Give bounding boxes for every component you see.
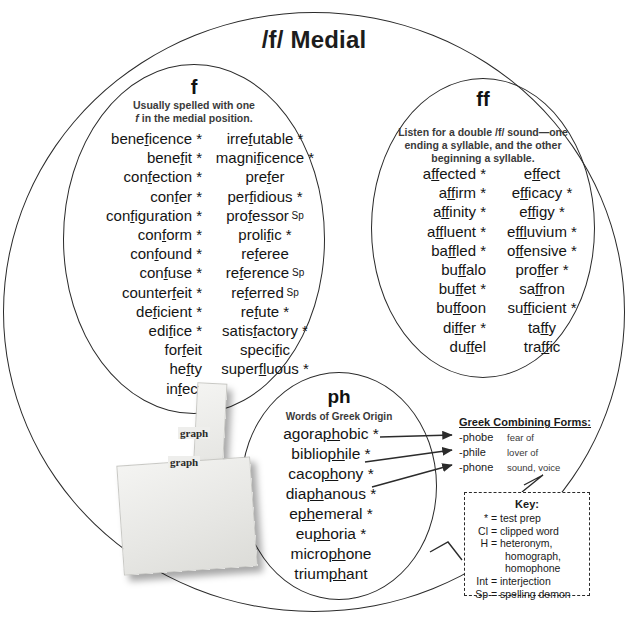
word-entry: professor Sp [200,206,330,225]
word-tag: Sp [289,210,304,221]
word-entry: affirm * [376,183,486,202]
circle-f-label: f [63,76,325,99]
word-entry: deficient * [62,302,202,321]
word-tag: * [279,303,289,320]
sticky-note-word-bottom: graph [168,456,200,468]
key-row: * = test prep [465,512,589,525]
word-entry: proffer * [488,260,596,279]
key-legend: Key: * = test prepCl = clipped wordH = h… [464,492,590,596]
sticky-note-card [116,456,257,575]
key-row: Sp = spelling demon [465,588,589,601]
word-tag: * [363,465,373,482]
word-tag: * [304,149,314,166]
word-tag: * [299,360,309,377]
word-entry: prolific * [200,225,330,244]
word-tag: * [476,242,486,259]
word-tag: * [293,130,303,147]
word-entry: satisfactory * [200,321,330,340]
word-entry: configuration * [62,206,202,225]
word-tag: * [559,261,569,278]
sticky-note-word-top: graph [178,427,210,439]
word-tag: * [360,445,370,462]
word-entry: confer * [62,187,202,206]
word-entry: baffled * [376,241,486,260]
greek-form: -phobe [459,430,507,444]
greek-form-meaning: lover of [507,447,538,458]
word-entry: affected * [376,164,486,183]
key-symbol: H [471,537,488,550]
word-tag: * [555,203,565,220]
word-entry: efficacy * [488,183,596,202]
word-tag: * [293,188,303,205]
word-tag: * [476,319,486,336]
greek-combining-forms: Greek Combining Forms: -phobefear of-phi… [459,416,619,475]
word-tag: * [369,425,379,442]
word-tag: * [476,165,486,182]
key-symbol: Sp [471,588,488,601]
circle-f-subtitle-line2: in the medial position. [139,112,253,124]
word-entry: buffoon [376,298,486,317]
key-row: homophone [465,562,589,575]
key-description: = heteronym, [491,537,553,549]
word-entry: affinity * [376,202,486,221]
word-tag: * [566,299,576,316]
word-tag: * [366,485,376,502]
circle-ff-label: ff [371,88,595,111]
greek-form-row: -phonesound, voice [459,460,619,475]
key-description: = interjection [491,575,551,587]
key-row: homograph, [465,550,589,563]
key-description: = spelling demon [491,588,571,600]
word-entry: offensive * [488,241,596,260]
word-entry: hefty [62,359,202,378]
greek-combining-forms-title: Greek Combining Forms: [459,416,619,428]
word-entry: confuse * [62,263,202,282]
key-title: Key: [465,498,589,510]
key-description: homophone [505,562,560,574]
key-description: = test prep [491,512,541,524]
diagram-canvas: /f/ Medial f Usually spelled with one f … [0,0,628,625]
word-tag: * [476,223,486,240]
word-entry: effect [488,164,596,183]
word-entry: counterfeit * [62,283,202,302]
word-tag: * [282,226,292,243]
key-row: Int = interjection [465,575,589,588]
word-entry: buffalo [376,260,486,279]
word-tag: * [356,525,366,542]
word-entry: effigy * [488,202,596,221]
word-entry: reference Sp [200,263,330,282]
key-symbol: Int [471,575,488,588]
word-tag: * [476,203,486,220]
word-entry: duffel [376,337,486,356]
word-entry: benefit * [62,148,202,167]
key-row: H = heteronym, [465,537,589,550]
word-entry: affluent * [376,222,486,241]
greek-form-meaning: sound, voice [507,462,560,473]
circle-f-subtitle-line1: Usually spelled with one [133,99,255,111]
word-entry: beneficence * [62,129,202,148]
word-tag: Sp [289,267,304,278]
key-description: = clipped word [491,525,559,537]
word-tag: * [567,223,577,240]
word-entry: sufficient * [488,298,596,317]
word-tag: Sp [284,287,299,298]
key-description: homograph, [505,550,561,562]
key-row: Cl = clipped word [465,525,589,538]
word-entry: confound * [62,244,202,263]
word-list-ff-right: effectefficacy *effigy *effluvium *offen… [488,164,596,356]
greek-form-row: -philelover of [459,445,619,460]
word-entry: saffron [488,279,596,298]
word-entry: forfeit [62,340,202,359]
word-tag: * [567,242,577,259]
word-list-f-right: irrefutable *magnificence *preferperfidi… [200,129,330,379]
word-entry: traffic [488,337,596,356]
word-entry: magnificence * [200,148,330,167]
word-tag: * [362,505,372,522]
page-title: /f/ Medial [0,26,628,54]
circle-ff-subtitle: Listen for a double /f/ sound—one ending… [382,126,584,165]
greek-form-row: -phobefear of [459,430,619,445]
word-tag: * [476,280,486,297]
word-entry: effluvium * [488,222,596,241]
greek-combining-forms-rows: -phobefear of-philelover of-phonesound, … [459,430,619,475]
word-entry: referred Sp [200,283,330,302]
key-rows: * = test prepCl = clipped wordH = hetero… [465,512,589,600]
